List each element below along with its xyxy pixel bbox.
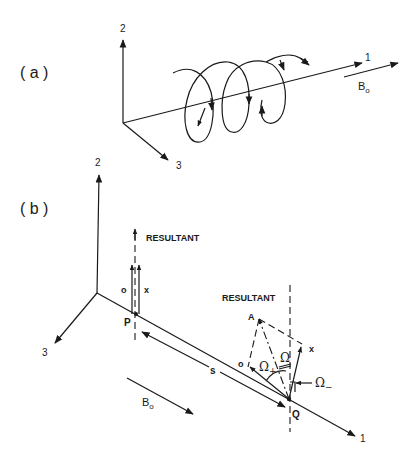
vector-x-p-label: x [144, 285, 149, 295]
axis-3-arrow [123, 123, 168, 160]
distance-s-arrow-right [220, 372, 285, 407]
diagram-canvas: ( a ) 2 3 1 Bo ( b ) 2 3 1 [0, 0, 416, 457]
axis-3-label: 3 [176, 160, 182, 171]
field-b0-label: Bo [358, 80, 370, 95]
vector-o-q-label: o [238, 359, 244, 369]
point-a-label: A [248, 312, 255, 322]
field-b0-label: Bo [142, 396, 154, 411]
axis-3-arrow [55, 293, 97, 343]
axis-1-label: 1 [360, 433, 366, 444]
axis-3-label: 3 [42, 347, 48, 358]
axis-1-label: 1 [365, 52, 371, 63]
point-p-label: P [124, 317, 131, 328]
axis-2-label: 2 [120, 23, 126, 34]
panel-a-label: ( a ) [20, 64, 48, 81]
angle-omega-minus-label: Ω− [315, 376, 333, 392]
parallelogram-side-x [259, 319, 302, 344]
panel-a: ( a ) 2 3 1 Bo [20, 23, 398, 171]
angle-omega-label: Ω [280, 351, 290, 365]
resultant-q-label: RESULTANT [222, 293, 276, 303]
axis-2-label: 2 [95, 157, 101, 168]
parallelogram-side-o [248, 319, 259, 367]
field-b0-arrow [127, 378, 193, 414]
angle-omega-plus-label: Ω+ [259, 360, 277, 376]
vector-x-q-label: x [309, 344, 314, 354]
panel-b-label: ( b ) [20, 200, 48, 217]
distance-s-label: s [210, 365, 216, 376]
precession-helix [173, 55, 309, 142]
axis-2-arrow [97, 175, 99, 293]
vector-o-p-label: o [121, 285, 127, 295]
resultant-p-label: RESULTANT [146, 233, 200, 243]
point-q-label: Q [292, 409, 300, 420]
panel-b: ( b ) 2 3 1 P RESULTANT o x s Bo Q RESUL… [20, 157, 366, 444]
